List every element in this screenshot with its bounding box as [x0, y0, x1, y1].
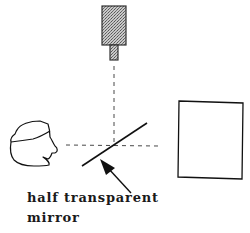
mirror-label-line1: half transparent: [27, 191, 159, 204]
pointer-arrow-icon: [100, 159, 131, 193]
human-head-icon: [10, 121, 57, 166]
half-transparent-mirror: [82, 123, 147, 166]
monitor-display: [178, 101, 243, 179]
camera-icon: [102, 6, 126, 60]
mirror-label-line2: mirror: [27, 211, 80, 224]
camera-body: [102, 6, 126, 45]
camera-lens: [110, 45, 118, 60]
